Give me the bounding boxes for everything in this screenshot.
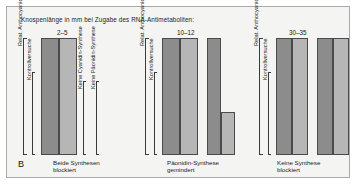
bar-panel-2-test-paeonidin — [221, 112, 235, 155]
chart-panel-2: 10–12 Relat. Anthocyanidingehalt Kontrol… — [145, 29, 243, 155]
bar-panel-1-kontroll-cyanidin — [41, 38, 59, 155]
panel-letter-label: B — [18, 159, 24, 169]
group-label-keine-paeonidin-panel-1: Keine Päonidin-Synthese — [89, 15, 97, 89]
y-axis-label-panel-3: Relat. Anthocyanidingehalt — [252, 0, 260, 46]
group-label-keine-cyanidin-panel-1: Keine Cyanidin-Synthese — [76, 15, 84, 89]
bar-panel-3-kontroll-paeonidin — [292, 38, 308, 155]
value-label-panel-2: 10–12 — [177, 29, 195, 36]
value-label-panel-3: 30–35 — [289, 29, 307, 36]
bar-panel-2-kontroll-cyanidin — [162, 38, 180, 155]
group-bracket-kontrollversuche-panel-3 — [268, 72, 271, 155]
bar-panel-2-kontroll-paeonidin — [180, 38, 198, 155]
chart-panel-1: 2–5 Relat. Anthocyanidingehalt Kontrollv… — [23, 29, 121, 155]
y-axis-label-panel-1: Relat. Anthocyanidingehalt — [16, 0, 24, 46]
panel-caption-3: Keine Synthese blockiert — [277, 159, 320, 174]
bar-panel-3-test-paeonidin — [333, 38, 349, 155]
figure-title: Knospenlänge in mm bei Zugabe des RNA-An… — [21, 16, 194, 23]
bar-panel-3-test-cyanidin — [317, 38, 333, 155]
group-bracket-keine-paeonidin-panel-1 — [96, 81, 99, 155]
value-label-panel-1: 2–5 — [57, 29, 68, 36]
y-axis-label-panel-2: Relat. Anthocyanidingehalt — [138, 0, 146, 46]
figure-panel-b: Knospenlänge in mm bei Zugabe des RNA-An… — [6, 6, 350, 178]
group-bracket-kontrollversuche-panel-2 — [154, 72, 157, 155]
chart-panel-3: 30–35 Relat. Anthocyanidingehalt Kontrol… — [259, 29, 349, 155]
panel-caption-1: Beide Synthesen blockiert — [53, 159, 100, 174]
group-bracket-kontrollversuche-panel-1 — [32, 72, 35, 155]
group-bracket-keine-cyanidin-panel-1 — [83, 81, 86, 155]
group-label-kontrollversuche-panel-1: Kontrollversuche — [25, 0, 33, 80]
panel-caption-2: Päonidin-Synthese gemindert — [167, 159, 219, 174]
bar-panel-1-kontroll-paeonidin — [59, 38, 77, 155]
bar-panel-3-kontroll-cyanidin — [276, 38, 292, 155]
bar-panel-2-test-cyanidin — [207, 38, 221, 155]
group-label-kontrollversuche-panel-2: Kontrollversuche — [147, 0, 155, 80]
group-label-kontrollversuche-panel-3: Kontrollversuche — [261, 0, 269, 80]
